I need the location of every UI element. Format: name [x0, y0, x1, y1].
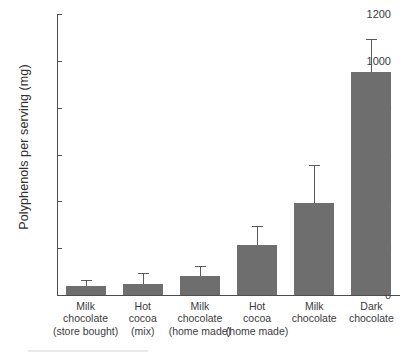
error-bar-cap — [81, 280, 92, 281]
y-axis-tick — [57, 295, 62, 296]
y-axis-tick — [57, 14, 62, 15]
error-bar-stem — [257, 227, 258, 245]
y-axis-tick-label: 1200 — [347, 8, 391, 20]
plot-area: 020040060080010001200 — [57, 14, 400, 295]
error-bar-cap — [138, 273, 149, 274]
bar — [123, 284, 163, 295]
bar — [294, 203, 334, 295]
y-axis-tick-label: 1000 — [347, 55, 391, 67]
y-axis-tick — [57, 61, 62, 62]
bar — [351, 72, 391, 295]
page-artifact — [28, 350, 148, 352]
y-axis-tick — [57, 201, 62, 202]
error-bar-cap — [195, 266, 206, 267]
x-axis-tick-label: Darkchocolate — [337, 300, 402, 325]
y-axis-title: Polyphenols per serving (mg) — [17, 17, 31, 277]
x-axis-tick-label-line: chocolate — [337, 312, 402, 324]
y-axis-tick — [57, 108, 62, 109]
bar — [66, 286, 106, 295]
error-bar-cap — [366, 39, 377, 40]
error-bar-stem — [86, 281, 87, 286]
y-axis-tick — [57, 248, 62, 249]
bar — [237, 245, 277, 295]
error-bar-cap — [309, 165, 320, 166]
error-bar-stem — [314, 166, 315, 203]
error-bar-stem — [200, 267, 201, 276]
x-axis-tick-label-line: Dark — [337, 300, 402, 312]
bar — [180, 276, 220, 295]
y-axis-tick — [57, 155, 62, 156]
error-bar-stem — [371, 40, 372, 72]
x-axis-tick-label-line: (home made) — [223, 325, 292, 337]
error-bar-stem — [143, 274, 144, 284]
error-bar-cap — [252, 226, 263, 227]
polyphenols-bar-chart: Polyphenols per serving (mg) 02004006008… — [0, 0, 402, 356]
